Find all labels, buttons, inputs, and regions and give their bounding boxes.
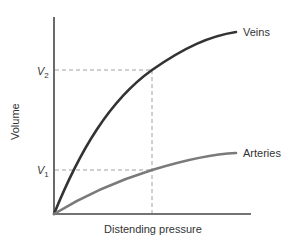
veins-curve [54, 32, 236, 214]
veins-label: Veins [243, 26, 270, 38]
arteries-curve [54, 153, 236, 214]
x-axis-title: Distending pressure [104, 223, 202, 235]
y-axis-title: Volume [9, 103, 21, 140]
arteries-label: Arteries [243, 147, 281, 159]
v1-tick-label: V1 [37, 164, 49, 179]
compliance-chart: Veins Arteries V2 V1 Distending pressure… [0, 0, 295, 240]
v2-tick-label: V2 [37, 65, 49, 80]
